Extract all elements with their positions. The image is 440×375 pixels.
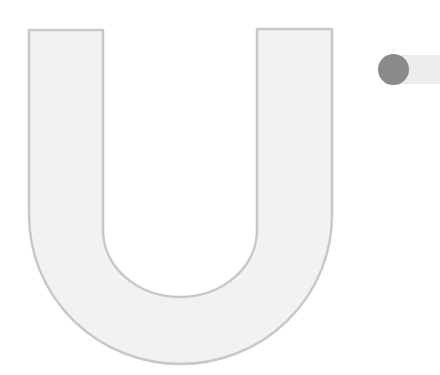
toggle-knob[interactable] [378, 54, 409, 85]
toggle-switch[interactable] [376, 53, 440, 86]
u-outline [29, 29, 332, 364]
